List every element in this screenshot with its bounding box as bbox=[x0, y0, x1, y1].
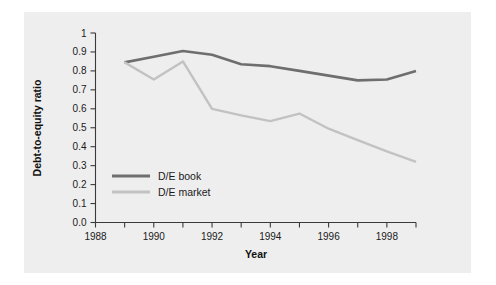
y-tick-label: 0.1 bbox=[73, 198, 87, 209]
y-tick-label: 0.9 bbox=[73, 46, 87, 57]
y-axis-ticks bbox=[91, 33, 96, 223]
x-axis-title: Year bbox=[245, 248, 267, 260]
y-tick-label: 0.7 bbox=[73, 84, 87, 95]
x-tick-label: 1992 bbox=[201, 231, 224, 242]
x-tick-label: 1998 bbox=[376, 231, 399, 242]
y-tick-label: 0.2 bbox=[73, 179, 87, 190]
x-tick-label: 1988 bbox=[84, 231, 107, 242]
y-axis-tick-labels: 0.00.10.20.30.40.50.60.70.80.91 bbox=[73, 28, 87, 229]
chart-series-group bbox=[125, 51, 416, 162]
x-tick-label: 1990 bbox=[143, 231, 166, 242]
x-axis-ticks bbox=[96, 223, 417, 228]
debt-to-equity-line-chart: 0.00.10.20.30.40.50.60.70.80.91 19881990… bbox=[0, 0, 496, 285]
y-tick-label: 0.6 bbox=[73, 103, 87, 114]
y-tick-label: 0.8 bbox=[73, 65, 87, 76]
chart-axes bbox=[96, 33, 417, 223]
y-tick-label: 0.0 bbox=[73, 217, 87, 228]
chart-legend: D/E bookD/E market bbox=[112, 170, 211, 198]
series-line-d-e-book bbox=[125, 51, 416, 80]
series-line-d-e-market bbox=[125, 61, 416, 161]
x-tick-label: 1994 bbox=[259, 231, 282, 242]
y-axis-title: Debt-to-equity ratio bbox=[31, 80, 43, 177]
y-tick-label: 0.3 bbox=[73, 160, 87, 171]
legend-label-2: D/E market bbox=[158, 186, 211, 198]
legend-label-1: D/E book bbox=[158, 170, 202, 182]
y-tick-label: 0.4 bbox=[73, 141, 87, 152]
x-axis-tick-labels: 198819901992199419961998 bbox=[84, 231, 398, 242]
x-tick-label: 1996 bbox=[317, 231, 340, 242]
y-tick-label: 0.5 bbox=[73, 122, 87, 133]
y-tick-label: 1 bbox=[81, 28, 87, 39]
